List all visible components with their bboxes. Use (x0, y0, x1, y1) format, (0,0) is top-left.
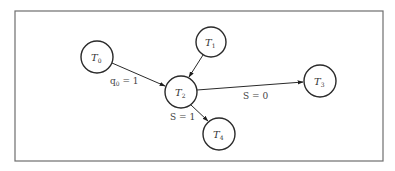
node-t4: T4 (203, 118, 235, 150)
edge-t2-t3 (197, 82, 303, 90)
node-t0: T0 (81, 41, 113, 73)
node-t1: T1 (196, 27, 226, 57)
edge-label-q0: q0 = 1 (110, 76, 139, 87)
edge-t1-t2 (189, 55, 203, 77)
edge-label-s1: S = 1 (170, 112, 195, 122)
node-t3: T3 (304, 65, 336, 97)
edges (112, 55, 303, 121)
edge-label-s0: S = 0 (243, 91, 268, 101)
node-t2: T2 (165, 76, 197, 108)
state-diagram: T0 T1 T2 T3 T4 q0 = 1 S = 0 S = 1 (0, 0, 395, 171)
